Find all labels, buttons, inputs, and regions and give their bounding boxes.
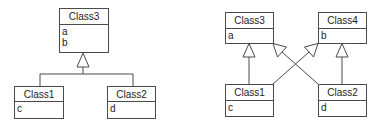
class-box-class4[interactable]: Class4 b xyxy=(319,13,367,44)
class-attribute: d xyxy=(321,102,327,113)
class-box-class2[interactable]: Class2 d xyxy=(319,85,367,117)
generalization-arrowhead-icon xyxy=(77,53,89,67)
class-box-class1[interactable]: Class1 c xyxy=(15,87,64,119)
class-attribute: c xyxy=(228,102,233,113)
class-name: Class3 xyxy=(69,11,100,22)
generalization-arrowhead-icon xyxy=(305,44,319,58)
class-box-class1[interactable]: Class1 c xyxy=(226,85,274,117)
connector-class2-class3 xyxy=(282,52,318,84)
class-attribute: a xyxy=(62,26,68,37)
class-box-class3[interactable]: Class3 a b xyxy=(60,9,109,53)
class-name: Class1 xyxy=(24,89,55,100)
class-attribute: c xyxy=(17,103,22,114)
generalization-arrowhead-icon xyxy=(243,44,255,58)
generalization-arrowhead-icon xyxy=(336,44,348,58)
class-box-class2[interactable]: Class2 d xyxy=(108,87,156,119)
uml-diagram-canvas: Class3 a b Class1 c Class2 d xyxy=(0,0,380,126)
class-attribute: b xyxy=(321,30,327,41)
connector-class1-class4 xyxy=(273,52,309,84)
left-diagram: Class3 a b Class1 c Class2 d xyxy=(15,9,156,119)
generalization-connectors-right xyxy=(243,44,348,85)
class-attribute: a xyxy=(228,30,234,41)
class-attribute: d xyxy=(110,103,116,114)
right-diagram: Class3 a Class4 b Class1 c Class2 d xyxy=(226,13,367,117)
generalization-arrowhead-icon xyxy=(273,44,287,58)
class-name: Class1 xyxy=(234,87,265,98)
class-name: Class2 xyxy=(327,87,358,98)
class-name: Class2 xyxy=(116,89,147,100)
class-box-class3[interactable]: Class3 a xyxy=(226,13,274,44)
class-attribute: b xyxy=(62,37,68,48)
class-name: Class3 xyxy=(234,15,265,26)
class-name: Class4 xyxy=(327,15,358,26)
generalization-connector-left xyxy=(40,53,133,86)
